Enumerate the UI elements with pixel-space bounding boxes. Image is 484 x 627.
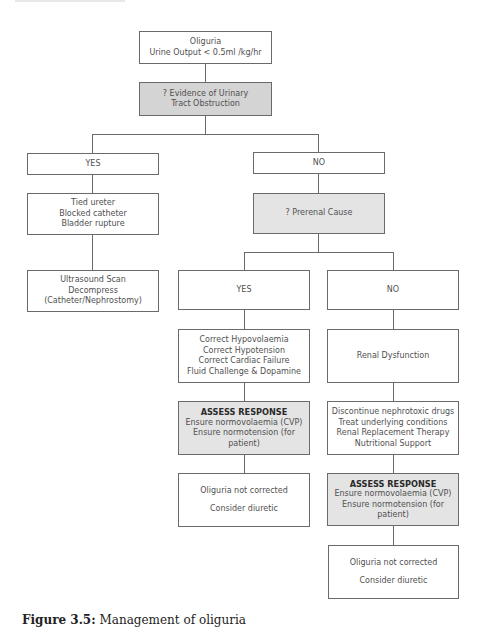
node-not-corrected-left: Oliguria not corrected Consider diuretic [178, 473, 310, 527]
node-text: ? Evidence of Urinary [163, 89, 248, 100]
connector [92, 134, 319, 135]
node-text: Ensure normovolaemia (CVP) [185, 418, 302, 429]
node-obstruction-causes: Tied ureter Blocked catheter Bladder rup… [27, 193, 159, 235]
node-text: Ensure normotension (for patient) [179, 428, 309, 449]
connector [244, 310, 245, 329]
node-heading: ASSESS RESPONSE [350, 479, 437, 490]
connector [318, 134, 319, 152]
node-text: (Catheter/Nephrostomy) [44, 296, 142, 307]
figure-title: Management of oliguria [99, 613, 245, 627]
node-question-prerenal: ? Prerenal Cause [253, 193, 385, 234]
node-text: Renal Dysfunction [357, 351, 430, 362]
connector [92, 235, 93, 270]
figure-label: Figure 3.5: [22, 613, 96, 627]
connector [393, 252, 394, 270]
node-assess-response-right: ASSESS RESPONSE Ensure normovolaemia (CV… [327, 473, 459, 526]
node-obstruction-no: NO [253, 152, 385, 174]
connector [244, 455, 245, 473]
connector [318, 234, 319, 252]
node-question-obstruction: ? Evidence of Urinary Tract Obstruction [139, 82, 272, 116]
connector [393, 455, 394, 473]
node-text: Fluid Challenge & Dopamine [187, 367, 301, 378]
connector [92, 134, 93, 153]
node-text: ? Prerenal Cause [286, 208, 353, 219]
node-heading: ASSESS RESPONSE [201, 407, 288, 418]
node-text: Urine Output < 0.5ml /kg/hr [149, 48, 261, 59]
node-text: Treat underlying conditions [339, 418, 448, 429]
node-obstruction-action: Ultrasound Scan Decompress (Catheter/Nep… [27, 270, 159, 312]
node-text: Blocked catheter [59, 209, 127, 220]
connector [393, 526, 394, 545]
node-renal-actions: Discontinue nephrotoxic drugs Treat unde… [327, 401, 459, 455]
connector [92, 175, 93, 193]
node-text: Ensure normotension (for patient) [328, 500, 458, 521]
node-text: Tract Obstruction [171, 99, 240, 110]
connector [244, 252, 245, 270]
node-text: Oliguria [190, 37, 221, 48]
connector [205, 116, 206, 134]
node-text: Ultrasound Scan [60, 275, 126, 286]
node-obstruction-yes: YES [27, 153, 159, 175]
connector [318, 174, 319, 193]
node-text: Consider diuretic [210, 504, 278, 515]
connector [244, 252, 394, 253]
node-renal-dysfunction: Renal Dysfunction [327, 329, 459, 383]
node-text: Renal Replacement Therapy [337, 428, 450, 439]
node-text: NO [313, 158, 325, 169]
page-header-rule [15, 0, 125, 2]
connector [205, 64, 206, 82]
node-text: Consider diuretic [360, 576, 428, 587]
node-text: Correct Cardiac Failure [199, 356, 290, 367]
connector [393, 310, 394, 329]
node-prerenal-no: NO [327, 270, 459, 310]
node-not-corrected-right: Oliguria not corrected Consider diuretic [328, 545, 459, 599]
connector [393, 383, 394, 401]
node-text: Tied ureter [71, 198, 115, 209]
node-text: Bladder rupture [61, 219, 124, 230]
node-text: Discontinue nephrotoxic drugs [332, 407, 454, 418]
node-oliguria-start: Oliguria Urine Output < 0.5ml /kg/hr [139, 31, 272, 64]
connector [244, 383, 245, 401]
node-text: Correct Hypotension [203, 346, 285, 357]
node-prerenal-actions: Correct Hypovolaemia Correct Hypotension… [178, 329, 310, 383]
node-text: NO [387, 285, 399, 296]
node-text: Decompress [68, 286, 118, 297]
node-prerenal-yes: YES [178, 270, 310, 310]
node-text: Correct Hypovolaemia [199, 335, 288, 346]
node-assess-response-left: ASSESS RESPONSE Ensure normovolaemia (CV… [178, 401, 310, 455]
node-text: YES [236, 285, 251, 296]
node-text: YES [85, 159, 100, 170]
figure-caption: Figure 3.5: Management of oliguria [22, 613, 246, 627]
node-text: Nutritional Support [355, 439, 431, 450]
node-text: Oliguria not corrected [200, 486, 288, 497]
node-text: Ensure normovolaemia (CVP) [334, 489, 451, 500]
node-text: Oliguria not corrected [350, 558, 438, 569]
